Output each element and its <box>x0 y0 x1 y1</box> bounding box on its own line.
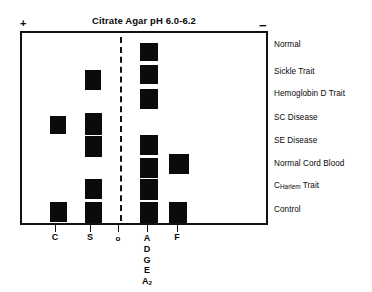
origin-dashed-line <box>120 37 122 221</box>
band-a <box>140 202 158 223</box>
axis-tick-s <box>90 225 91 232</box>
axis-label-a: A <box>140 233 154 244</box>
band-s <box>85 136 102 157</box>
gel-plate <box>20 31 268 225</box>
sample-label-1: Normal <box>274 41 301 49</box>
sample-label-2: Sickle Trait <box>274 68 315 76</box>
sample-label-4: SC Disease <box>274 114 318 122</box>
band-a <box>140 158 158 178</box>
axis-tick-o <box>118 225 119 232</box>
sample-label-8: Control <box>274 206 301 214</box>
sample-label-6: Normal Cord Blood <box>274 160 344 168</box>
axis-label-d: D <box>140 244 154 255</box>
band-a <box>140 43 158 61</box>
hemoglobin-electrophoresis-figure: + − Citrate Agar pH 6.0-6.2 NormalSickle… <box>0 0 372 292</box>
origin-position-label: o <box>111 235 125 243</box>
sample-label-7: CHarlem Trait <box>274 182 319 191</box>
band-c <box>50 202 67 222</box>
band-s <box>85 113 102 135</box>
band-a <box>140 179 158 200</box>
f-position-label: F <box>170 233 184 242</box>
axis-label-e: E <box>140 265 154 276</box>
sample-label-suffix: Trait <box>301 181 320 190</box>
band-s <box>85 179 102 199</box>
band-f <box>169 154 189 174</box>
a-position-label-stack: ADGEA2 <box>140 233 154 289</box>
gel-title: Citrate Agar pH 6.0-6.2 <box>20 16 268 26</box>
axis-label-g: G <box>140 255 154 266</box>
axis-label-a2: A2 <box>140 276 154 289</box>
band-a <box>140 65 158 84</box>
band-c <box>50 116 66 134</box>
axis-tick-f <box>177 225 178 232</box>
sample-label-subscript: Harlem <box>280 183 301 190</box>
axis-tick-c <box>55 225 56 232</box>
sample-label-5: SE Disease <box>274 137 317 145</box>
band-a <box>140 89 158 109</box>
c-position-label: C <box>48 233 62 242</box>
axis-tick-a <box>147 225 148 232</box>
band-s <box>85 202 102 223</box>
band-a <box>140 135 158 155</box>
band-f <box>169 202 187 223</box>
sample-label-3: Hemoglobin D Trait <box>274 90 345 98</box>
s-position-label: S <box>83 233 97 242</box>
band-s <box>85 70 101 90</box>
